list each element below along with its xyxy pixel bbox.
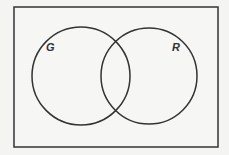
venn-diagram: G R [0, 0, 229, 155]
set-g-label: G [46, 41, 55, 53]
set-r-label: R [172, 41, 180, 53]
universal-set-rectangle [14, 7, 218, 147]
